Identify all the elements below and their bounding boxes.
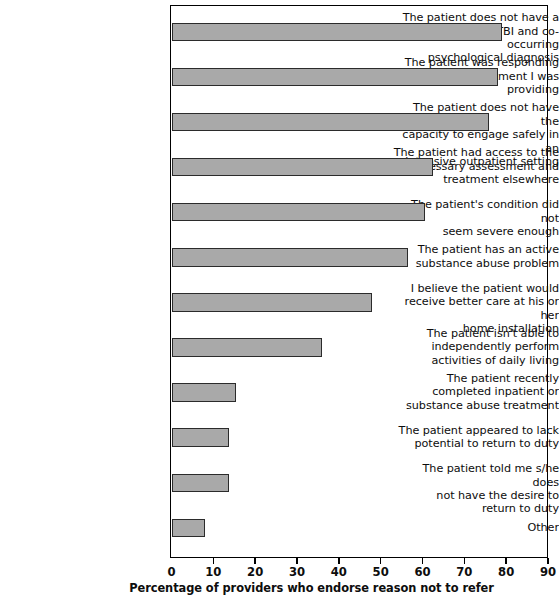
x-axis-tick xyxy=(505,558,506,564)
x-axis-tick-label: 90 xyxy=(540,565,556,579)
x-axis-tick xyxy=(464,558,465,564)
bar xyxy=(172,338,323,357)
x-axis-title-text: Percentage of providers who endorse reas… xyxy=(129,581,494,595)
bar xyxy=(172,23,502,42)
x-axis-tick xyxy=(547,558,548,564)
bar xyxy=(172,519,205,538)
x-axis-tick-label: 10 xyxy=(205,565,221,579)
x-axis-tick xyxy=(254,558,255,564)
x-axis-tick-label: 20 xyxy=(247,565,263,579)
x-axis-title: Percentage of providers who endorse reas… xyxy=(0,581,559,595)
bar xyxy=(172,474,229,493)
x-axis-tick xyxy=(422,558,423,564)
x-axis-tick-label: 30 xyxy=(289,565,305,579)
x-axis-tick xyxy=(213,558,214,564)
x-axis-tick-label: 60 xyxy=(414,565,430,579)
x-axis-tick xyxy=(296,558,297,564)
bar xyxy=(172,203,425,222)
bars-layer xyxy=(0,0,559,597)
chart-page: The patient does not have a history of T… xyxy=(0,0,559,597)
x-axis-tick-label: 80 xyxy=(498,565,514,579)
x-axis-tick-label: 70 xyxy=(456,565,472,579)
bar xyxy=(172,293,373,312)
bar xyxy=(172,158,433,177)
x-axis-tick-label: 50 xyxy=(373,565,389,579)
bar xyxy=(172,383,237,402)
bar xyxy=(172,68,498,87)
x-axis-tick xyxy=(338,558,339,564)
x-axis-tick xyxy=(380,558,381,564)
x-axis-tick-label: 40 xyxy=(331,565,347,579)
bar xyxy=(172,428,229,447)
x-axis-tick-label: 0 xyxy=(167,565,175,579)
horizontal-bar-chart: The patient does not have a history of T… xyxy=(0,0,559,597)
bar xyxy=(172,113,490,132)
bar xyxy=(172,248,408,267)
